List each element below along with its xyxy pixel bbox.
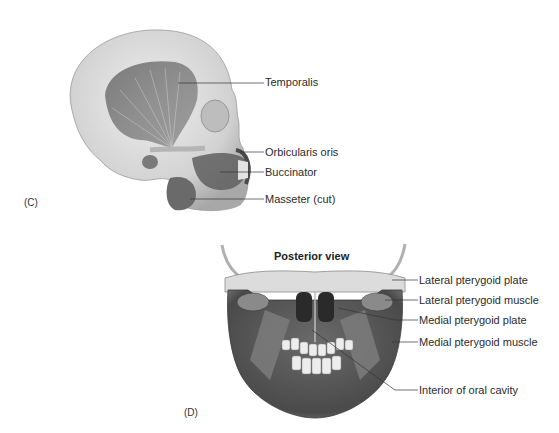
label-buccinator: Buccinator: [265, 166, 317, 179]
label-lateral-pterygoid-muscle: Lateral pterygoid muscle: [419, 294, 539, 307]
label-interior-oral-cavity: Interior of oral cavity: [419, 384, 518, 397]
panel-d-tag: (D): [184, 407, 198, 418]
label-temporalis: Temporalis: [265, 76, 318, 89]
posterior-view-title: Posterior view: [274, 250, 349, 262]
skull-lateral-view: [70, 30, 249, 211]
label-medial-pterygoid-muscle: Medial pterygoid muscle: [419, 336, 538, 349]
label-lateral-pterygoid-plate: Lateral pterygoid plate: [419, 274, 528, 287]
panel-c-tag: (C): [24, 197, 38, 208]
label-orbicularis-oris: Orbicularis oris: [265, 146, 338, 159]
label-masseter: Masseter (cut): [265, 193, 335, 206]
anatomy-illustration: [0, 0, 559, 433]
label-medial-pterygoid-plate: Medial pterygoid plate: [419, 314, 527, 327]
